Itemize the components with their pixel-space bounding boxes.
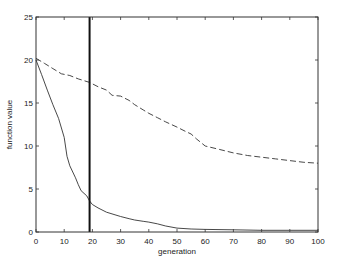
y-tick-label: 20 [24, 56, 33, 65]
x-tick-label: 10 [60, 237, 69, 246]
y-tick-label: 15 [24, 99, 33, 108]
y-tick-label: 25 [24, 13, 33, 22]
y-tick-label: 5 [29, 185, 34, 194]
x-tick-label: 100 [311, 237, 325, 246]
line-chart: 0510152025 0102030405060708090100 genera… [0, 0, 339, 268]
series-solid-line [36, 60, 318, 230]
x-axis-tick-labels: 0102030405060708090100 [34, 237, 325, 246]
x-tick-label: 60 [201, 237, 210, 246]
plot-frame [36, 17, 318, 232]
y-tick-label: 10 [24, 142, 33, 151]
x-axis-label: generation [158, 247, 196, 256]
x-tick-label: 0 [34, 237, 39, 246]
x-tick-label: 50 [173, 237, 182, 246]
series-dashed-line [36, 58, 318, 163]
y-axis-tick-labels: 0510152025 [24, 13, 33, 237]
x-tick-label: 30 [116, 237, 125, 246]
x-tick-label: 90 [285, 237, 294, 246]
x-tick-label: 20 [88, 237, 97, 246]
x-tick-label: 70 [229, 237, 238, 246]
data-series [36, 58, 318, 230]
axis-ticks [36, 17, 318, 232]
x-tick-label: 80 [257, 237, 266, 246]
y-tick-label: 0 [29, 228, 34, 237]
x-tick-label: 40 [144, 237, 153, 246]
y-axis-label: function value [5, 99, 14, 149]
